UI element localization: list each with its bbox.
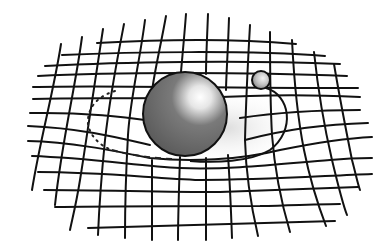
grid-h-line-0 (97, 40, 296, 44)
grid-v-line-13 (334, 64, 360, 190)
large-mass-sphere (143, 72, 227, 156)
grid-v-line-1 (55, 37, 82, 205)
grid-h-line-11 (44, 187, 358, 192)
grid-h-line-12 (55, 204, 340, 207)
grid-h-line-2 (45, 62, 340, 66)
grid-v-line-3 (98, 24, 124, 235)
orbiting-small-sphere (252, 71, 270, 89)
spacetime-curvature-diagram (0, 0, 390, 249)
grid-h-line-1 (62, 52, 325, 56)
